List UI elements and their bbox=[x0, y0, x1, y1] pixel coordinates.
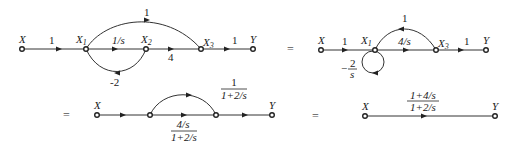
node-x1 bbox=[84, 47, 89, 52]
node-x bbox=[20, 47, 25, 52]
node-label-y: Y bbox=[269, 99, 277, 111]
arrow-icon bbox=[224, 47, 230, 52]
svg-text:4/s: 4/s bbox=[177, 118, 190, 130]
node-intermediate bbox=[214, 113, 219, 118]
equals-sign: = bbox=[63, 108, 70, 122]
equals-sign: = bbox=[287, 42, 294, 56]
svg-text:1+2/s: 1+2/s bbox=[171, 131, 197, 143]
graph-3-loop-eliminated: X Y 4/s 1+2/s 1 1+2/s bbox=[93, 76, 277, 143]
gain-x-x1: 1 bbox=[49, 34, 55, 46]
node-label-x1: X1 bbox=[75, 33, 87, 47]
equals-sign: = bbox=[312, 109, 319, 123]
node-label-y: Y bbox=[250, 33, 258, 45]
arrow-icon bbox=[398, 27, 404, 32]
gain-feedback: -2 bbox=[110, 76, 119, 88]
node-y bbox=[270, 113, 275, 118]
node-y bbox=[493, 114, 498, 119]
node-label-x: X bbox=[93, 99, 102, 111]
node-label-x: X bbox=[361, 100, 370, 112]
gain-x3-y: 1 bbox=[464, 35, 470, 47]
arrow-icon bbox=[56, 47, 62, 52]
node-label-x: X bbox=[317, 34, 326, 46]
signal-flow-diagram: X X1 X2 X3 Y 1 1/s 4 1 1 -2 = X X1 X3 Y … bbox=[0, 0, 516, 146]
gain-feedforward: 1 bbox=[402, 12, 408, 24]
node-label-x3: X3 bbox=[437, 37, 449, 51]
svg-text:s: s bbox=[350, 68, 354, 80]
node-label-x3: X3 bbox=[202, 36, 214, 50]
node-label-y: Y bbox=[492, 100, 500, 112]
gain-arc-fraction: 1 1+2/s bbox=[221, 76, 247, 101]
gain-x1-x2: 1/s bbox=[112, 34, 125, 46]
node-x bbox=[95, 113, 100, 118]
node-label-x1: X1 bbox=[360, 34, 372, 48]
arrow-icon bbox=[458, 48, 464, 53]
node-x bbox=[319, 48, 324, 53]
node-x1 bbox=[373, 48, 378, 53]
arrow-icon bbox=[120, 113, 126, 118]
arrow-icon bbox=[421, 114, 427, 119]
node-x2 bbox=[144, 47, 149, 52]
node-label-y: Y bbox=[483, 34, 491, 46]
node-label-x: X bbox=[18, 33, 27, 45]
gain-x-x1: 1 bbox=[342, 35, 348, 47]
graph-2-reduced: X X1 X3 Y 1 4/s 1 1 − 2 s bbox=[317, 12, 491, 80]
node-intermediate bbox=[148, 113, 153, 118]
gain-x3-y: 1 bbox=[232, 34, 238, 46]
gain-forward-fraction: 4/s 1+2/s bbox=[171, 118, 197, 143]
gain-feedforward: 1 bbox=[144, 6, 150, 18]
graph2-self-loop bbox=[362, 51, 384, 73]
node-label-x2: X2 bbox=[140, 33, 152, 47]
node-y bbox=[251, 47, 256, 52]
arrow-icon bbox=[181, 113, 187, 118]
svg-text:1+2/s: 1+2/s bbox=[221, 89, 247, 101]
arrow-icon bbox=[186, 93, 192, 98]
arrow-icon bbox=[372, 71, 378, 76]
gain-x1-x3: 4/s bbox=[398, 35, 411, 47]
gain-total-fraction: 1+4/s 1+2/s bbox=[407, 89, 439, 113]
svg-text:1+2/s: 1+2/s bbox=[410, 101, 436, 113]
graph1-feedback-arc bbox=[86, 49, 146, 72]
graph-1-original: X X1 X2 X3 Y 1 1/s 4 1 1 -2 bbox=[18, 6, 258, 88]
svg-text:1+4/s: 1+4/s bbox=[410, 89, 436, 101]
node-y bbox=[484, 48, 489, 53]
svg-text:1: 1 bbox=[231, 76, 237, 88]
gain-x2-x3: 4 bbox=[168, 51, 174, 63]
arrow-icon bbox=[403, 48, 409, 53]
arrow-icon bbox=[342, 48, 348, 53]
svg-text:−: − bbox=[341, 62, 347, 74]
graph-4-final: X Y 1+4/s 1+2/s bbox=[361, 89, 500, 119]
arrow-icon bbox=[112, 47, 118, 52]
arrow-icon bbox=[242, 113, 248, 118]
graph3-feedforward-arc bbox=[150, 95, 216, 115]
gain-self-loop: − 2 s bbox=[341, 57, 357, 80]
node-x bbox=[363, 114, 368, 119]
